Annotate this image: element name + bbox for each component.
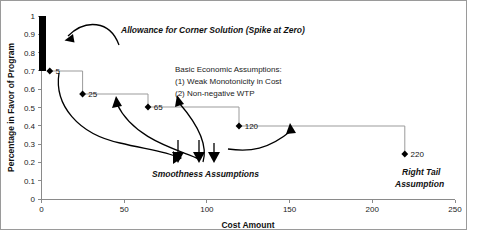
smoothness-arrow-1-curve [58,73,177,157]
smoothness-arrow-2-head [112,96,122,108]
y-tick-label-1: 1 [31,12,36,21]
x-axis-title: Cost Amount [221,220,274,230]
marker-point-120 [236,123,243,130]
y-tick-label-02: 0.2 [24,158,36,167]
assumption-item-1: (1) Weak Monotonicity in Cost [175,77,282,86]
spike-at-zero-bar [39,16,46,71]
right-tail-label-line1: Right Tail [402,167,441,177]
point-label-120: 120 [245,122,259,131]
x-tick-label-150: 150 [283,205,297,214]
right-tail-label-line2: Assumption [394,179,444,189]
x-tick-label-200: 200 [366,205,380,214]
y-tick-label-08: 0.8 [24,49,36,58]
x-tick-label-100: 100 [200,205,214,214]
y-axis-title: Percentage in Favor of Program [6,43,16,172]
point-label-25: 25 [88,90,97,99]
y-tick-label-01: 0.1 [24,177,36,186]
x-tick-label-50: 50 [120,205,129,214]
point-label-65: 65 [154,103,163,112]
marker-point-220 [401,151,408,158]
chart-figure: 1 0.9 0.8 0.7 0.6 0.5 0.4 0.3 0.2 0.1 0 … [0,0,477,248]
assumptions-heading: Basic Economic Assumptions: [175,65,282,74]
y-tick-label-05: 0.5 [24,104,36,113]
right-tail-arrow-curve [228,130,292,150]
smoothness-label: Smoothness Assumptions [152,169,259,179]
x-tick-label-0: 0 [39,205,44,214]
y-tick-label-04: 0.4 [24,122,36,131]
marker-point-25 [79,91,86,98]
y-tick-label-0: 0 [31,195,36,204]
y-tick-label-09: 0.9 [24,30,36,39]
x-axis: 0 50 100 150 200 250 Cost Amount [39,200,462,231]
smoothness-down-head-3 [208,152,220,163]
y-tick-label-06: 0.6 [24,85,36,94]
point-label-5: 5 [56,67,61,76]
point-label-220: 220 [411,150,425,159]
marker-point-65 [145,104,152,111]
assumption-item-2: (2) Non-negative WTP [175,89,255,98]
corner-solution-annotation: Allowance for Corner Solution (Spike at … [65,25,305,45]
basic-economic-assumptions-block: Basic Economic Assumptions: (1) Weak Mon… [175,65,282,98]
y-tick-label-07: 0.7 [24,67,36,76]
marker-point-5 [46,68,53,75]
corner-solution-arrow-curve [68,25,119,45]
y-tick-label-03: 0.3 [24,140,36,149]
right-tail-arrow-head [286,123,296,134]
y-axis: 1 0.9 0.8 0.7 0.6 0.5 0.4 0.3 0.2 0.1 0 … [6,12,42,204]
corner-solution-label: Allowance for Corner Solution (Spike at … [120,25,305,35]
x-tick-label-250: 250 [448,205,462,214]
